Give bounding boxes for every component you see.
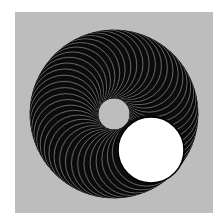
final-white-circle bbox=[118, 117, 184, 183]
swept-circle-figure bbox=[0, 0, 222, 216]
inner-hole bbox=[99, 99, 129, 129]
